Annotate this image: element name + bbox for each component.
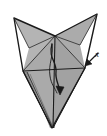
origami-figure-root: x [0, 0, 107, 136]
axis-x-label: x [94, 49, 99, 59]
origami-diagram: x [0, 0, 107, 136]
